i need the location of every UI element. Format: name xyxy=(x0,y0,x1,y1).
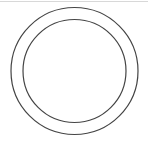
inner-circle xyxy=(23,20,126,123)
outer-circle xyxy=(11,8,138,135)
concentric-circles-diagram xyxy=(0,0,148,141)
